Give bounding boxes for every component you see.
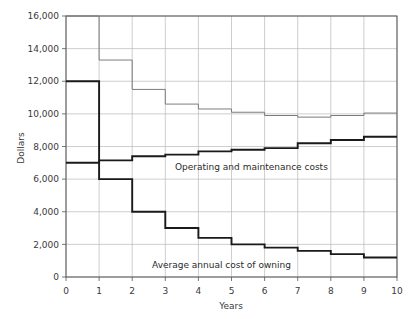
x-tick-label: 8 (328, 286, 334, 296)
x-axis-tick-labels: 012345678910 (63, 286, 403, 296)
x-axis-title: Years (218, 301, 243, 311)
annotation-operating-and-maintenance-costs: Operating and maintenance costs (175, 162, 328, 172)
x-tick-label: 5 (229, 286, 235, 296)
y-axis-tick-labels: 16,00014,00012,00010,0008,0006,0004,0002… (28, 11, 60, 282)
x-tick-label: 6 (262, 286, 268, 296)
x-axis-ticks (66, 277, 397, 281)
y-axis-ticks (62, 16, 66, 277)
annotation-average-annual-cost-of-owning: Average annual cost of owning (152, 260, 291, 270)
x-tick-label: 9 (361, 286, 367, 296)
x-tick-label: 7 (295, 286, 301, 296)
x-tick-label: 4 (196, 286, 202, 296)
y-tick-label: 12,000 (28, 76, 60, 86)
y-tick-label: 0 (53, 272, 59, 282)
cost-step-chart: 16,00014,00012,00010,0008,0006,0004,0002… (0, 0, 409, 319)
chart-container: 16,00014,00012,00010,0008,0006,0004,0002… (0, 0, 409, 319)
y-tick-label: 6,000 (33, 174, 59, 184)
y-tick-label: 14,000 (28, 44, 60, 54)
y-axis-title: Dollars (16, 132, 26, 164)
y-tick-label: 16,000 (28, 11, 60, 21)
x-tick-label: 3 (162, 286, 168, 296)
y-tick-label: 8,000 (33, 142, 59, 152)
y-tick-label: 4,000 (33, 207, 59, 217)
x-tick-label: 10 (391, 286, 403, 296)
y-tick-label: 2,000 (33, 240, 59, 250)
x-tick-label: 1 (96, 286, 102, 296)
y-tick-label: 10,000 (28, 109, 60, 119)
x-tick-label: 0 (63, 286, 69, 296)
x-tick-label: 2 (129, 286, 135, 296)
